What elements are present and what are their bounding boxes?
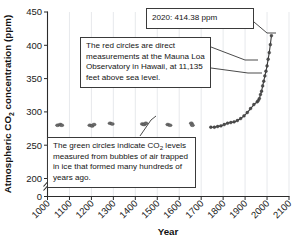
annotation-peak-value: 2020: 414.38 ppm <box>146 8 254 29</box>
y-tick-label-400: 400 <box>26 40 42 51</box>
mauna-loa-point-21 <box>263 74 266 77</box>
mauna-loa-point-0 <box>209 126 212 129</box>
series-mauna-loa-points <box>209 34 272 128</box>
x-tick-label-1100: 1100 <box>52 198 74 220</box>
mauna-loa-point-7 <box>233 120 236 123</box>
co2-chart-figure: 0200250300350400450 10001100120013001400… <box>0 0 298 251</box>
y-axis-title: Atmospheric CO2 concentration (ppm) <box>2 15 15 194</box>
mauna-loa-point-18 <box>260 90 263 93</box>
mauna-loa-point-26 <box>269 43 272 46</box>
x-tick-label-1000: 1000 <box>29 198 52 221</box>
x-tick-labels-group: 1000110012001300140015001600170018001900… <box>29 198 293 221</box>
mauna-loa-point-1 <box>213 126 216 129</box>
x-tick-label-1200: 1200 <box>73 198 96 221</box>
y-tick-label-450: 450 <box>26 6 42 17</box>
mauna-loa-point-2 <box>216 125 219 128</box>
x-tick-label-1800: 1800 <box>205 198 228 221</box>
ice-core-point-10 <box>144 122 148 125</box>
annotation-green-prefix: The green circles indicate CO <box>53 141 160 150</box>
mauna-loa-point-22 <box>264 70 267 73</box>
x-tick-label-2000: 2000 <box>249 198 272 221</box>
y-tick-label-350: 350 <box>26 73 42 84</box>
x-tick-label-1400: 1400 <box>117 198 140 221</box>
x-tick-label-1500: 1500 <box>139 198 162 221</box>
mauna-loa-point-3 <box>219 124 222 127</box>
annotation-green-subscript: 2 <box>160 144 163 151</box>
x-tick-label-1700: 1700 <box>183 198 206 221</box>
mauna-loa-point-24 <box>267 58 270 61</box>
annotation-red-circles: The red circles are direct measurements … <box>80 37 211 88</box>
mauna-loa-point-13 <box>252 103 255 106</box>
leader-line-green <box>140 116 156 136</box>
mauna-loa-point-23 <box>266 64 269 67</box>
annotation-peak-text: 2020: 414.38 ppm <box>152 13 217 22</box>
mauna-loa-point-16 <box>258 97 261 100</box>
x-tick-label-1600: 1600 <box>161 198 184 221</box>
mauna-loa-point-9 <box>239 117 242 120</box>
x-tick-label-1300: 1300 <box>95 198 118 221</box>
mauna-loa-point-27 <box>270 34 273 37</box>
mauna-loa-point-10 <box>243 114 246 117</box>
ice-core-point-14 <box>190 124 194 127</box>
mauna-loa-point-25 <box>268 51 271 54</box>
mauna-loa-point-11 <box>246 111 249 114</box>
ice-core-point-5 <box>92 123 96 126</box>
annotation-red-circles-text: The red circles are direct measurements … <box>86 41 205 82</box>
mauna-loa-point-8 <box>236 119 239 122</box>
y-axis-title-prefix: Atmospheric CO <box>2 116 13 194</box>
y-tick-label-250: 250 <box>26 140 42 151</box>
x-axis-title: Year <box>158 226 179 237</box>
annotation-green-circles: The green circles indicate CO2 levels me… <box>47 137 196 188</box>
y-tick-label-200: 200 <box>26 173 42 184</box>
mauna-loa-point-6 <box>229 121 232 124</box>
mauna-loa-point-4 <box>223 123 226 126</box>
x-tick-label-2100: 2100 <box>271 198 294 221</box>
leader-line-red-top <box>211 47 258 60</box>
leader-line-peak <box>254 22 276 33</box>
mauna-loa-point-19 <box>261 84 264 87</box>
mauna-loa-point-20 <box>262 80 265 83</box>
series-ice-core-points <box>55 122 194 128</box>
leader-line-red-bottom <box>211 68 262 73</box>
mauna-loa-point-12 <box>249 107 252 110</box>
x-tick-label-1900: 1900 <box>227 198 250 221</box>
y-axis-title-suffix: concentration (ppm) <box>2 15 13 112</box>
mauna-loa-point-17 <box>259 93 262 96</box>
y-tick-label-300: 300 <box>26 106 42 117</box>
ice-core-point-7 <box>110 122 114 125</box>
ice-core-point-12 <box>168 124 172 127</box>
mauna-loa-point-5 <box>226 122 229 125</box>
ice-core-point-2 <box>60 124 64 127</box>
y-tick-labels-group: 0200250300350400450 <box>26 6 42 202</box>
